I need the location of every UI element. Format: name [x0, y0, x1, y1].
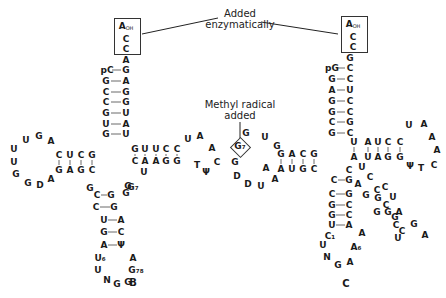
nucleotide: G — [102, 129, 109, 139]
nucleotide: U — [141, 144, 148, 154]
nucleotide: A — [355, 179, 362, 189]
nucleotide: U — [122, 129, 129, 139]
nucleotide: G₇ — [234, 141, 245, 151]
nucleotide: A — [118, 215, 125, 225]
nucleotide: U — [319, 240, 326, 250]
nucleotide: C — [56, 150, 63, 160]
nucleotide: A — [434, 145, 441, 155]
nucleotide: U — [102, 119, 109, 129]
nucleotide: G — [102, 108, 109, 118]
nucleotide: U — [152, 144, 159, 154]
nucleotide: G — [113, 279, 120, 289]
oh-subscript: OH — [126, 25, 134, 31]
caption-B: B — [129, 277, 137, 288]
nucleotide: A — [329, 85, 336, 95]
nucleotide: U — [364, 152, 371, 162]
nucleotide: U — [389, 192, 396, 202]
nucleotide: G — [410, 219, 417, 229]
nucleotide: G — [346, 53, 353, 63]
nucleotide: U — [350, 137, 357, 147]
nucleotide: G — [102, 76, 109, 86]
nucleotide: C — [174, 144, 181, 154]
nucleotide: A — [209, 143, 216, 153]
nucleotide: U — [10, 157, 17, 167]
nucleotide: G — [362, 190, 369, 200]
nucleotide: G — [55, 165, 62, 175]
nucleotide: C — [123, 44, 130, 54]
nucleotide: C — [431, 160, 438, 170]
nucleotide: C — [350, 32, 357, 42]
nucleotide: U — [10, 144, 17, 154]
nucleotide: C — [399, 226, 406, 236]
nucleotide: A — [272, 174, 279, 184]
nucleotide: G — [173, 156, 180, 166]
nucleotide: G — [328, 128, 335, 138]
nucleotide: C — [347, 107, 354, 117]
nucleotide: G — [299, 164, 306, 174]
nucleotide: pC — [100, 65, 113, 75]
nucleotide: G — [273, 141, 280, 151]
nucleotide: G₇ — [127, 182, 138, 192]
nucleotide: G — [328, 96, 335, 106]
nucleotide: G — [77, 165, 84, 175]
nucleotide: U — [122, 108, 129, 118]
nucleotide: G — [328, 210, 335, 220]
nucleotide: G — [12, 169, 19, 179]
nucleotide: U — [22, 135, 29, 145]
nucleotide: G — [122, 97, 129, 107]
annotation-line: enzymatically — [205, 19, 274, 30]
nucleotide: U — [257, 181, 264, 191]
nucleotide: C — [300, 149, 307, 159]
nucleotide: G — [242, 128, 249, 138]
nucleotide: C — [346, 200, 353, 210]
nucleotide: G — [100, 227, 107, 237]
nucleotide: AOH — [346, 19, 361, 31]
nucleotide: G — [110, 202, 117, 212]
annotation-line: added — [205, 110, 276, 121]
nucleotide: C — [347, 96, 354, 106]
nucleotide: C — [78, 150, 85, 160]
nucleotide: A — [351, 152, 358, 162]
nucleotide: C — [346, 210, 353, 220]
annotation-line: Added — [205, 8, 274, 19]
nucleotide: C — [89, 165, 96, 175]
nucleotide: C — [103, 87, 110, 97]
nucleotide: A — [142, 156, 149, 166]
nucleotide: G — [24, 178, 31, 188]
nucleotide: A — [346, 220, 353, 230]
nucleotide: A — [123, 119, 130, 129]
nucleotide: A — [48, 136, 55, 146]
nucleotide: Ψ — [117, 240, 125, 250]
nucleotide: C — [346, 165, 353, 175]
nucleotide: G — [35, 131, 42, 141]
nucleotide: A — [197, 131, 204, 141]
nucleotide: C — [93, 202, 100, 212]
nucleotide: C — [123, 34, 130, 44]
nucleotide: G — [396, 152, 403, 162]
nucleotide: G — [384, 152, 391, 162]
nucleotide: G — [231, 157, 238, 167]
nucleotide: N — [323, 252, 331, 262]
nucleotide: C — [132, 156, 139, 166]
nucleotide: U — [66, 150, 73, 160]
nucleotide: C — [374, 185, 381, 195]
nucleotide: C — [103, 97, 110, 107]
nucleotide: U — [346, 85, 353, 95]
trna-diagram: Added enzymatically Methyl radical added… — [0, 0, 446, 298]
nucleotide: G — [131, 144, 138, 154]
nucleotide: A — [130, 253, 137, 263]
nucleotide: C — [118, 227, 125, 237]
nucleotide: A — [278, 164, 285, 174]
nucleotide: A — [375, 152, 382, 162]
nucleotide: C — [350, 42, 357, 52]
nucleotide: pG — [325, 63, 339, 73]
nucleotide: G — [310, 149, 317, 159]
nucleotide: A — [153, 156, 160, 166]
nucleotide: Ψ — [406, 161, 414, 171]
nucleotide: A — [365, 137, 372, 147]
nucleotide: G — [88, 150, 95, 160]
nucleotide: A — [422, 230, 429, 240]
nucleotide: A — [421, 119, 428, 129]
nucleotide: G — [122, 65, 129, 75]
nucleotide: C — [311, 164, 318, 174]
